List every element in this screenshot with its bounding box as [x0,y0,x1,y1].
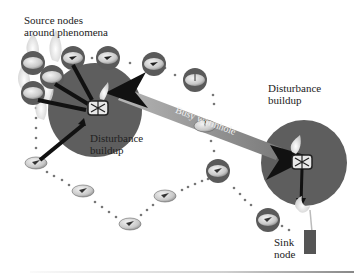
sensor-network-diagram [0,0,354,275]
sensor-node [154,190,176,202]
sensor-node [96,46,120,70]
label-disturbance-left: Disturbance buildup [90,132,143,156]
sensor-node [72,185,94,197]
label-line: Source nodes [24,14,108,26]
label-sink-node: Sink node [274,236,295,260]
label-line: node [274,248,295,260]
label-disturbance-right: Disturbance buildup [268,82,321,106]
dotted-path-lower-left [46,171,155,219]
label-line: Disturbance [268,82,321,94]
label-line: Sink [274,236,295,248]
label-line: buildup [90,144,143,156]
sensor-node [256,208,280,232]
label-line: around phenomena [24,26,108,38]
sensor-node [183,68,207,92]
sensor-node [142,52,166,76]
label-line: Disturbance [90,132,143,144]
sensor-node [119,218,141,230]
dotted-path-top-right [212,94,216,106]
sensor-node [206,159,230,183]
label-line: buildup [268,94,321,106]
label-source-nodes: Source nodes around phenomena [24,14,108,38]
divider [30,271,354,273]
